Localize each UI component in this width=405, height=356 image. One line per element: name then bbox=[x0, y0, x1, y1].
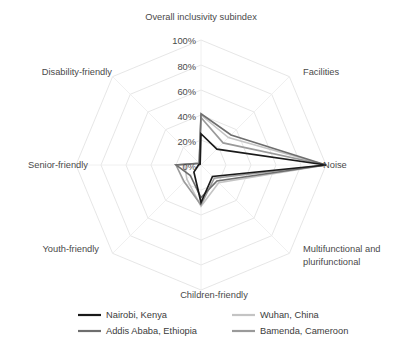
legend-item-nairobi-kenya: Nairobi, Kenya bbox=[78, 310, 168, 320]
tick-label-100: 100% bbox=[172, 36, 196, 46]
axis-label-youth-friendly: Youth-friendly bbox=[42, 244, 99, 254]
chart-legend: Nairobi, Kenya Wuhan, China Addis Ababa,… bbox=[78, 310, 348, 336]
axis-label-senior-friendly: Senior-friendly bbox=[28, 160, 88, 170]
tick-label-40: 40% bbox=[177, 112, 196, 122]
axis-label-multifunctional-line2: plurifunctional bbox=[303, 257, 360, 267]
axis-label-children-friendly: Children-friendly bbox=[180, 290, 248, 300]
series-polygon-addis-ababa-ethiopia bbox=[176, 114, 326, 198]
axis-label-noise: Noise bbox=[323, 160, 347, 170]
tick-label-80: 80% bbox=[177, 62, 196, 72]
radar-chart-svg: 100% 80% 60% 40% 20% 0% Overall inclusiv… bbox=[0, 0, 405, 356]
axis-label-facilities: Facilities bbox=[303, 67, 340, 77]
legend-label-addis-ababa-ethiopia: Addis Ababa, Ethiopia bbox=[106, 326, 198, 336]
radar-series-layer bbox=[176, 114, 326, 207]
legend-item-wuhan-china: Wuhan, China bbox=[232, 310, 320, 320]
radar-spokes bbox=[76, 40, 326, 290]
legend-label-nairobi-kenya: Nairobi, Kenya bbox=[106, 310, 168, 320]
tick-label-60: 60% bbox=[177, 87, 196, 97]
tick-label-20: 20% bbox=[177, 137, 196, 147]
legend-item-addis-ababa-ethiopia: Addis Ababa, Ethiopia bbox=[78, 326, 198, 336]
radar-chart-figure: 100% 80% 60% 40% 20% 0% Overall inclusiv… bbox=[0, 0, 405, 356]
legend-label-wuhan-china: Wuhan, China bbox=[260, 310, 320, 320]
legend-label-bamenda-cameroon: Bamenda, Cameroon bbox=[260, 326, 348, 336]
tick-label-0: 0% bbox=[183, 162, 196, 172]
axis-label-overall-inclusivity-subindex: Overall inclusivity subindex bbox=[145, 12, 257, 22]
legend-item-bamenda-cameroon: Bamenda, Cameroon bbox=[232, 326, 348, 336]
axis-label-multifunctional-line1: Multifunctional and bbox=[303, 244, 381, 254]
axis-label-disability-friendly: Disability-friendly bbox=[42, 67, 113, 77]
